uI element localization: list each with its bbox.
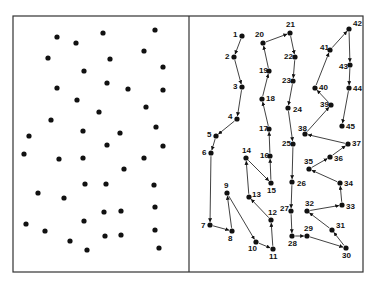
dot-number-label: 21	[286, 20, 295, 29]
connector-arrow	[259, 243, 270, 248]
dot-number-label: 2	[225, 52, 230, 61]
diagram-frame	[13, 16, 363, 272]
dot-number-label: 35	[304, 157, 313, 166]
numbered-dot	[345, 141, 350, 146]
dot	[153, 124, 158, 129]
dot-number-label: 37	[352, 139, 361, 148]
numbered-dot	[289, 179, 294, 184]
dot-number-label: 8	[228, 234, 233, 243]
numbered-dot	[343, 245, 348, 250]
dot	[143, 104, 148, 109]
dot-number-label: 40	[319, 83, 328, 92]
dot	[152, 227, 157, 232]
dot-number-label: 15	[267, 186, 276, 195]
connector-arrow	[235, 39, 241, 54]
connector-arrow	[312, 170, 337, 181]
dot	[121, 166, 126, 171]
dot-number-label: 24	[293, 105, 302, 114]
dot	[125, 86, 130, 91]
dot-number-label: 25	[282, 139, 291, 148]
dot	[101, 209, 106, 214]
dot-number-label: 5	[207, 130, 212, 139]
connector-arrow	[310, 237, 343, 247]
connector-arrow	[269, 132, 270, 153]
connector-arrow	[288, 111, 292, 141]
dot	[152, 27, 157, 32]
numbered-dot	[268, 217, 273, 222]
dot-number-label: 32	[305, 199, 314, 208]
dot-number-label: 6	[202, 148, 207, 157]
dot-number-label: 18	[266, 94, 275, 103]
connector-arrow	[263, 74, 268, 96]
dot	[54, 85, 59, 90]
connector-arrow	[340, 186, 341, 202]
dot-number-label: 31	[336, 221, 345, 230]
dot-connection-diagram: 1234567891011121314151617181920212223242…	[0, 0, 376, 285]
connector-arrow	[307, 107, 329, 131]
dot	[56, 156, 61, 161]
dot-number-label: 27	[280, 204, 289, 213]
dot	[26, 133, 31, 138]
dot	[151, 182, 156, 187]
numbered-dot	[239, 84, 244, 89]
dot	[81, 68, 86, 73]
numbered-dot	[327, 154, 332, 159]
connector-arrow	[212, 139, 215, 150]
dot	[80, 128, 85, 133]
dot-number-label: 39	[320, 100, 329, 109]
dot	[118, 208, 123, 213]
dot-number-label: 44	[353, 84, 362, 93]
dot-number-label: 19	[259, 66, 268, 75]
dot-number-label: 11	[269, 252, 278, 261]
dot-number-label: 41	[320, 43, 329, 52]
connector-arrow	[310, 206, 339, 211]
dot-number-label: 26	[297, 179, 306, 188]
dot	[100, 30, 105, 35]
dot-number-label: 13	[252, 190, 261, 199]
dot-number-label: 30	[342, 251, 351, 260]
dot-number-label: 43	[339, 62, 348, 71]
dot	[73, 40, 78, 45]
numbered-dot	[287, 30, 292, 35]
connector-arrow	[248, 160, 268, 180]
numbered-dot	[246, 194, 251, 199]
dot-number-label: 14	[242, 146, 251, 155]
dot-number-label: 7	[201, 221, 206, 230]
dot	[61, 195, 66, 200]
numbered-dot	[208, 150, 213, 155]
numbered-dot	[304, 208, 309, 213]
dot	[84, 247, 89, 252]
right-panel-connecting-path	[210, 31, 350, 247]
numbered-dot	[239, 33, 244, 38]
connector-arrow	[266, 34, 287, 42]
right-panel-number-labels: 1234567891011121314151617181920212223242…	[201, 19, 362, 261]
numbered-dot	[285, 105, 290, 110]
connector-arrow	[312, 159, 327, 168]
numbered-dot	[224, 190, 229, 195]
numbered-dot	[229, 228, 234, 233]
dot	[45, 55, 50, 60]
connector-arrow	[349, 68, 350, 85]
dot	[74, 97, 79, 102]
connector-arrow	[246, 161, 249, 194]
dot	[104, 80, 109, 85]
numbered-dot	[207, 222, 212, 227]
dot	[117, 130, 122, 135]
numbered-dot	[259, 96, 264, 101]
dot-number-label: 12	[268, 208, 277, 217]
dot	[82, 181, 87, 186]
dot	[107, 56, 112, 61]
connector-arrow	[213, 226, 229, 230]
dot	[160, 143, 165, 148]
dot	[67, 238, 72, 243]
dot-number-label: 38	[298, 124, 307, 133]
connector-arrow	[289, 84, 293, 105]
dot	[54, 34, 59, 39]
dot-number-label: 3	[233, 82, 238, 91]
numbered-dot	[346, 85, 351, 90]
connector-arrow	[349, 32, 350, 62]
connector-arrow	[316, 53, 329, 85]
connector-arrow	[291, 185, 292, 208]
numbered-dot	[270, 246, 275, 251]
numbered-dot	[339, 123, 344, 128]
